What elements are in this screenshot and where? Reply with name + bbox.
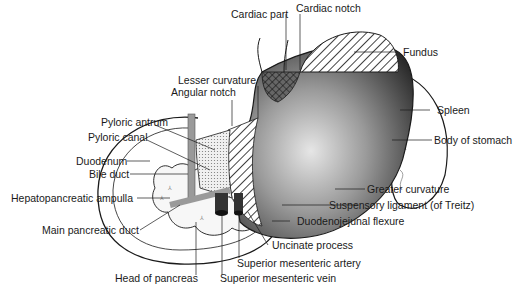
label-lesser-curvature: Lesser curvature	[178, 74, 256, 86]
label-angular-notch: Angular notch	[171, 86, 236, 98]
anatomy-illustration: ⅄⅄⅄ ⅄⅄⅄	[0, 0, 521, 292]
label-duodenojejunal-flexure: Duodenojejunal flexure	[297, 215, 404, 227]
label-pyloric-antrum: Pyloric antrum	[101, 116, 168, 128]
label-head-of-pancreas: Head of pancreas	[115, 272, 198, 284]
label-hepatopancreatic-ampulla: Hepatopancreatic ampulla	[11, 192, 133, 204]
label-greater-curvature: Greater curvature	[367, 183, 449, 195]
label-cardiac-part: Cardiac part	[231, 8, 288, 20]
svg-text:⅄: ⅄	[167, 185, 172, 191]
label-spleen: Spleen	[437, 104, 470, 116]
label-main-pancreatic-duct: Main pancreatic duct	[42, 224, 139, 236]
label-cardiac-notch: Cardiac notch	[296, 2, 361, 14]
svg-text:⅄: ⅄	[199, 215, 204, 221]
label-uncinate-process: Uncinate process	[272, 239, 353, 251]
label-duodenum: Duodenum	[76, 155, 127, 167]
label-body-of-stomach: Body of stomach	[434, 134, 512, 146]
label-bile-duct: Bile duct	[89, 168, 129, 180]
label-suspensory-ligament: Suspensory ligament (of Treitz)	[329, 199, 474, 211]
bile-duct-shape	[188, 114, 195, 198]
label-pyloric-canal: Pyloric canal	[88, 131, 148, 143]
label-superior-mesenteric-artery: Superior mesenteric artery	[237, 257, 361, 269]
label-superior-mesenteric-vein: Superior mesenteric vein	[220, 272, 336, 284]
label-fundus: Fundus	[403, 46, 438, 58]
